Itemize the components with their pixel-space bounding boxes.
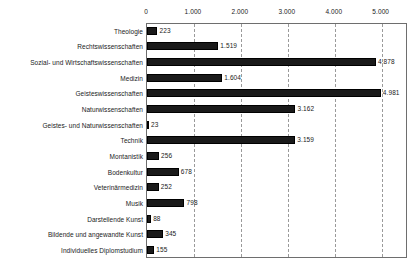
x-tick-label: 4.000 [325, 8, 342, 15]
bar [147, 230, 163, 238]
bar-group: 23 [147, 121, 158, 129]
category-label: Rechtswissenschaften [77, 43, 143, 50]
bar-value-label: 223 [159, 28, 170, 35]
bar [147, 246, 154, 254]
bar-value-label: 678 [181, 169, 192, 176]
bar [147, 27, 157, 35]
bar-group: 1.604 [147, 74, 241, 82]
bar [147, 136, 295, 144]
bar-value-label: 3.162 [297, 106, 314, 113]
bar-group: 256 [147, 152, 172, 160]
bar [147, 199, 184, 207]
chart-row: Darstellende Kunst88 [0, 211, 415, 227]
bar-group: 252 [147, 183, 172, 191]
bar [147, 215, 151, 223]
bar-group: 155 [147, 246, 167, 254]
category-label: Medizin [120, 74, 143, 81]
category-label: Bodenkultur [108, 168, 143, 175]
bar [147, 105, 295, 113]
bar-value-label: 88 [153, 216, 160, 223]
category-label: Sozial- und Wirtschaftswissenschaften [30, 59, 143, 66]
bar-chart: 01.0002.0003.0004.0005.000 Theologie223R… [0, 0, 415, 270]
chart-row: Montanistik256 [0, 148, 415, 164]
chart-row: Geistes- und Naturwissenschaften23 [0, 117, 415, 133]
chart-row: Bodenkultur678 [0, 164, 415, 180]
bar-value-label: 23 [151, 122, 158, 129]
bar-group: 678 [147, 168, 192, 176]
chart-rows: Theologie223Rechtswissenschaften1.519Soz… [0, 23, 415, 258]
bar-value-label: 3.159 [297, 137, 314, 144]
bar-value-label: 256 [161, 153, 172, 160]
bar-value-label: 1.519 [220, 43, 237, 50]
category-label: Musik [126, 200, 143, 207]
category-label: Bildende und angewandte Kunst [48, 231, 143, 238]
category-label: Veterinärmedizin [94, 184, 143, 191]
bar [147, 42, 218, 50]
category-label: Geisteswissenschaften [75, 90, 143, 97]
bar [147, 58, 376, 66]
bar-group: 4.981 [147, 89, 400, 97]
chart-row: Veterinärmedizin252 [0, 180, 415, 196]
bar-value-label: 4.981 [383, 90, 400, 97]
chart-row: Musik798 [0, 195, 415, 211]
bar-value-label: 345 [165, 231, 176, 238]
x-tick-label: 3.000 [278, 8, 295, 15]
chart-row: Sozial- und Wirtschaftswissenschaften4.8… [0, 54, 415, 70]
bar-value-label: 4.878 [378, 59, 395, 66]
chart-row: Medizin1.604 [0, 70, 415, 86]
bar-group: 345 [147, 230, 176, 238]
bar-group: 3.159 [147, 136, 314, 144]
chart-row: Theologie223 [0, 23, 415, 39]
chart-row: Technik3.159 [0, 133, 415, 149]
category-label: Darstellende Kunst [87, 215, 143, 222]
chart-row: Naturwissenschaften3.162 [0, 101, 415, 117]
bar-value-label: 798 [186, 200, 197, 207]
bar-value-label: 155 [156, 247, 167, 254]
bar-group: 1.519 [147, 42, 237, 50]
bar [147, 121, 149, 129]
bar-group: 88 [147, 215, 161, 223]
x-tick-label: 0 [144, 8, 148, 15]
category-label: Individuelles Diplomstudium [61, 247, 143, 254]
bar-group: 798 [147, 199, 198, 207]
bar-group: 223 [147, 27, 171, 35]
bar-value-label: 1.604 [224, 75, 241, 82]
category-label: Montanistik [110, 153, 143, 160]
bar [147, 152, 159, 160]
bar-group: 4.878 [147, 58, 395, 66]
bar-value-label: 252 [161, 184, 172, 191]
category-label: Naturwissenschaften [82, 106, 143, 113]
category-label: Geistes- und Naturwissenschaften [42, 121, 143, 128]
category-label: Technik [121, 137, 143, 144]
chart-row: Individuelles Diplomstudium155 [0, 242, 415, 258]
x-tick-label: 2.000 [231, 8, 248, 15]
bar [147, 183, 159, 191]
bar [147, 168, 179, 176]
category-label: Theologie [114, 27, 143, 34]
x-axis-tick-labels: 01.0002.0003.0004.0005.000 [146, 8, 407, 22]
bar-group: 3.162 [147, 105, 314, 113]
x-tick-label: 5.000 [372, 8, 389, 15]
chart-row: Bildende und angewandte Kunst345 [0, 227, 415, 243]
chart-row: Geisteswissenschaften4.981 [0, 86, 415, 102]
bar [147, 89, 381, 97]
bar [147, 74, 222, 82]
chart-row: Rechtswissenschaften1.519 [0, 39, 415, 55]
x-tick-label: 1.000 [185, 8, 202, 15]
